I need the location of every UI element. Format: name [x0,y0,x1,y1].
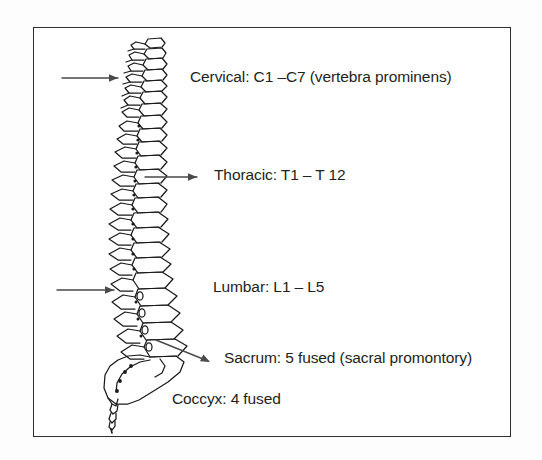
label-lumbar: Lumbar: L1 – L5 [213,278,324,295]
label-thoracic: Thoracic: T1 – T 12 [214,166,346,183]
label-sacrum: Sacrum: 5 fused (sacral promontory) [224,349,472,366]
figure-root: Cervical: C1 –C7 (vertebra prominens) Th… [0,0,542,460]
label-coccyx: Coccyx: 4 fused [172,390,281,407]
label-cervical: Cervical: C1 –C7 (vertebra prominens) [190,68,452,85]
figure-border [33,27,511,437]
